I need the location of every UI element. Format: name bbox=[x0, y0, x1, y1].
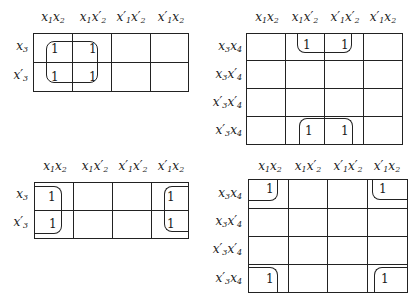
row-header-x3px4p: x′3x′4 bbox=[210, 242, 242, 257]
cell-value: 1 bbox=[51, 70, 59, 84]
row-header-x3p: x′3 bbox=[4, 215, 28, 230]
row-header-x3x4p: x3x′4 bbox=[210, 67, 242, 82]
col-header-x1x2: x1x2 bbox=[257, 159, 283, 174]
cell-value: 1 bbox=[266, 182, 274, 196]
row-header-x3p: x′3 bbox=[4, 68, 28, 83]
col-header-x1px2p: x′1x′2 bbox=[116, 10, 146, 25]
cell-value: 1 bbox=[167, 190, 175, 204]
cell-value: 1 bbox=[341, 124, 349, 138]
col-header-x1px2: x′1x2 bbox=[156, 159, 186, 174]
col-header-x1x2: x1x2 bbox=[42, 159, 68, 174]
cell-value: 1 bbox=[49, 217, 57, 231]
cell-value: 1 bbox=[305, 124, 313, 138]
col-header-x1px2: x′1x2 bbox=[368, 10, 398, 25]
row-header-x3x4p: x3x′4 bbox=[210, 214, 242, 229]
cell-value: 1 bbox=[379, 182, 387, 196]
col-header-x1x2p: x1x′2 bbox=[78, 10, 108, 25]
col-header-x1x2: x1x2 bbox=[40, 10, 66, 25]
col-header-x1x2p: x1x′2 bbox=[290, 10, 320, 25]
col-header-x1px2p: x′1x′2 bbox=[330, 10, 360, 25]
row-header-x3: x3 bbox=[4, 187, 28, 202]
cell-value: 1 bbox=[341, 38, 349, 52]
cell-value: 1 bbox=[303, 38, 311, 52]
cell-value: 1 bbox=[89, 70, 97, 84]
col-header-x1x2: x1x2 bbox=[254, 10, 280, 25]
row-header-x3px4: x′3x4 bbox=[210, 271, 242, 286]
cell-value: 1 bbox=[48, 190, 56, 204]
cell-value: 1 bbox=[89, 42, 97, 56]
col-header-x1x2p: x1x′2 bbox=[293, 159, 323, 174]
col-header-x1px2: x′1x2 bbox=[156, 10, 186, 25]
group-loop-bottom-right bbox=[374, 267, 408, 293]
row-header-x3x4: x3x4 bbox=[210, 186, 242, 201]
cell-value: 1 bbox=[381, 272, 389, 286]
row-header-x3px4: x′3x4 bbox=[210, 123, 242, 138]
group-loop-top-right bbox=[372, 179, 408, 200]
col-header-x1px2p: x′1x′2 bbox=[333, 159, 363, 174]
row-header-x3x4: x3x4 bbox=[210, 39, 242, 54]
col-header-x1x2p: x1x′2 bbox=[80, 159, 110, 174]
cell-value: 1 bbox=[167, 217, 175, 231]
cell-value: 1 bbox=[266, 272, 274, 286]
cell-value: 1 bbox=[51, 42, 59, 56]
row-header-x3: x3 bbox=[4, 39, 28, 54]
row-header-x3px4p: x′3x′4 bbox=[210, 95, 242, 110]
col-header-x1px2p: x′1x′2 bbox=[118, 159, 148, 174]
col-header-x1px2: x′1x2 bbox=[372, 159, 402, 174]
